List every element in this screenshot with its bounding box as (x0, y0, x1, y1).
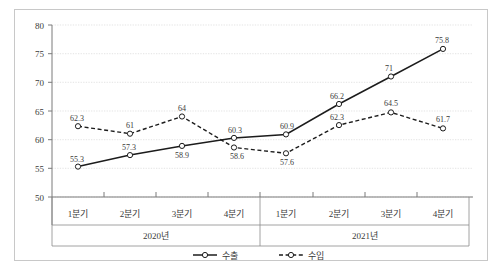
data-label: 71 (385, 64, 393, 73)
exports-point (231, 135, 236, 140)
data-label: 62.3 (330, 113, 344, 122)
top-edge-artifact (0, 0, 504, 8)
data-label: 64 (178, 104, 186, 113)
data-label: 58.6 (230, 152, 244, 161)
y-tick-80: 80 (35, 21, 45, 31)
y-tick-60: 60 (35, 135, 45, 145)
imports-point (179, 114, 184, 119)
data-label: 61 (126, 121, 134, 130)
category-table (52, 197, 469, 246)
exports-point (336, 101, 341, 106)
quarter-label: 4분기 (433, 209, 454, 219)
quarter-label: 4분기 (224, 209, 245, 219)
data-label: 64.5 (384, 99, 398, 108)
chart-figure: 80 75 70 65 60 55 50 (14, 9, 488, 261)
data-label: 57.3 (122, 143, 136, 152)
data-label: 61.7 (436, 115, 450, 124)
data-label: 58.9 (175, 151, 189, 160)
line-chart-canvas: 80 75 70 65 60 55 50 (15, 10, 487, 260)
y-axis-tick-labels: 80 75 70 65 60 55 50 (35, 21, 45, 203)
year-label-2021: 2021년 (352, 231, 378, 241)
y-tick-55: 55 (35, 164, 45, 174)
imports-point (75, 124, 80, 129)
quarter-labels: 1분기 2분기 3분기 4분기 1분기 2분기 3분기 4분기 (68, 209, 454, 219)
imports-point (231, 145, 236, 150)
data-label: 62.3 (70, 114, 84, 123)
chart-legend: 수출 수입 (193, 250, 324, 261)
data-label: 60.9 (280, 122, 294, 131)
legend-item-exports[interactable]: 수출 (193, 251, 238, 261)
quarter-label: 1분기 (276, 209, 297, 219)
legend-label-imports: 수입 (308, 250, 324, 261)
x-axis (52, 192, 473, 197)
exports-point (283, 132, 288, 137)
legend-marker-exports (202, 252, 207, 257)
y-axis (48, 25, 52, 225)
y-tick-70: 70 (35, 78, 45, 88)
y-tick-65: 65 (35, 107, 45, 117)
imports-point (127, 131, 132, 136)
exports-point (75, 164, 80, 169)
exports-point (179, 143, 184, 148)
quarter-label: 2분기 (120, 209, 141, 219)
year-label-2020: 2020년 (143, 231, 169, 241)
y-tick-75: 75 (35, 49, 45, 59)
imports-point (388, 110, 393, 115)
quarter-label: 1분기 (68, 209, 89, 219)
exports-point (127, 153, 132, 158)
legend-label-exports: 수출 (222, 251, 238, 261)
legend-item-imports[interactable]: 수입 (279, 250, 324, 261)
imports-point (283, 151, 288, 156)
data-label: 75.8 (435, 36, 449, 45)
quarter-label: 3분기 (172, 209, 193, 219)
data-label: 66.2 (330, 92, 344, 101)
quarter-label: 2분기 (329, 209, 350, 219)
data-label: 60.3 (228, 126, 242, 135)
data-label: 55.3 (70, 155, 84, 164)
legend-marker-imports (288, 252, 293, 257)
data-label: 57.6 (280, 158, 294, 167)
y-tick-50: 50 (35, 193, 45, 203)
grid-lines (52, 25, 473, 197)
imports-point (440, 126, 445, 131)
exports-point (388, 74, 393, 79)
imports-point (336, 123, 341, 128)
exports-point (440, 46, 445, 51)
quarter-label: 3분기 (381, 209, 402, 219)
year-labels: 2020년 2021년 (143, 231, 378, 241)
